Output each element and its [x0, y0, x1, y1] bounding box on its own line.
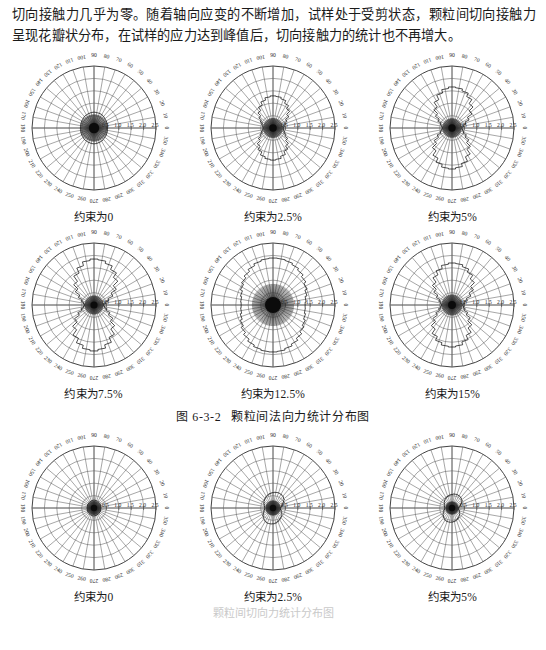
subplot-caption-normal-12p5: 约束为12.5% — [241, 385, 305, 401]
radial-tick-label-2.5: 2.5 — [151, 501, 158, 507]
radial-tick-label-1.5: 1.5 — [126, 121, 133, 127]
angle-tick-label-50: 50 — [136, 448, 144, 456]
angle-tick-label-150: 150 — [386, 467, 395, 477]
center-core-dot — [90, 301, 97, 308]
angle-tick-label-310: 310 — [494, 178, 504, 188]
subplot-caption-tangential-2p5: 约束为2.5% — [244, 588, 302, 604]
angle-tick-label-330: 330 — [331, 539, 340, 549]
angle-tick-label-0: 0 — [522, 126, 528, 129]
angle-tick-label-290: 290 — [293, 369, 303, 378]
angle-tick-label-0: 0 — [343, 506, 349, 509]
angle-tick-label-60: 60 — [305, 238, 313, 246]
angle-tick-label-90: 90 — [270, 229, 276, 235]
angle-tick-label-10: 10 — [162, 112, 169, 119]
angle-tick-label-300: 300 — [483, 363, 493, 372]
angle-tick-label-0: 0 — [163, 506, 169, 509]
angle-tick-label-70: 70 — [474, 233, 481, 241]
angle-tick-label-70: 70 — [474, 56, 481, 64]
radial-tick-label-1.0: 1.0 — [114, 121, 121, 127]
angle-tick-label-30: 30 — [153, 467, 161, 475]
angle-tick-label-340: 340 — [158, 148, 167, 158]
angle-tick-label-310: 310 — [314, 178, 324, 188]
angle-tick-label-340: 340 — [337, 528, 346, 538]
figure-number: 图 6-3-2 — [176, 410, 221, 424]
angle-tick-label-160: 160 — [381, 98, 390, 108]
angle-tick-label-210: 210 — [386, 538, 395, 548]
radial-tick-label-2.0: 2.0 — [139, 121, 146, 127]
angle-tick-label-10: 10 — [520, 492, 527, 499]
angle-tick-label-340: 340 — [337, 148, 346, 158]
angle-tick-label-220: 220 — [213, 548, 223, 558]
radial-tick-label-1.5: 1.5 — [306, 298, 313, 304]
angle-tick-label-120: 120 — [411, 61, 421, 70]
angle-tick-label-130: 130 — [222, 68, 232, 78]
angle-tick-label-170: 170 — [199, 288, 206, 298]
angle-tick-label-350: 350 — [520, 313, 527, 323]
angle-tick-label-140: 140 — [213, 77, 223, 87]
angle-tick-label-130: 130 — [222, 245, 232, 255]
angle-tick-label-140: 140 — [393, 254, 403, 264]
angle-tick-label-140: 140 — [213, 254, 223, 264]
angle-tick-label-260: 260 — [77, 574, 87, 581]
angle-tick-label-250: 250 — [64, 367, 74, 376]
angle-tick-label-60: 60 — [305, 61, 313, 69]
paragraph-text: 切向接触力几乎为零。随着轴向应变的不断增加，试样处于受剪状态，颗粒间切向接触力呈… — [12, 4, 536, 47]
angle-tick-label-160: 160 — [202, 275, 211, 285]
angle-tick-label-100: 100 — [76, 54, 86, 61]
angle-tick-label-100: 100 — [256, 54, 266, 61]
plot-cell-normal-15: 0102030405060708090100110120130140150160… — [365, 224, 539, 401]
angle-tick-label-50: 50 — [316, 448, 324, 456]
center-core-dot — [449, 505, 455, 511]
angle-tick-label-30: 30 — [332, 87, 340, 95]
angle-tick-label-220: 220 — [393, 345, 403, 355]
angle-tick-label-20: 20 — [517, 276, 525, 283]
angle-tick-label-320: 320 — [503, 549, 513, 559]
angle-tick-label-280: 280 — [101, 373, 111, 380]
angle-tick-label-310: 310 — [314, 558, 324, 568]
angle-tick-label-90: 90 — [91, 229, 97, 235]
figure-row-normal-2: 0102030405060708090100110120130140150160… — [0, 224, 546, 401]
plot-cell-normal-2p5: 0102030405060708090100110120130140150160… — [186, 47, 360, 224]
angle-tick-label-210: 210 — [386, 335, 395, 345]
angle-tick-label-220: 220 — [393, 548, 403, 558]
angle-tick-label-20: 20 — [517, 479, 525, 486]
radial-tick-label-2.5: 2.5 — [330, 298, 337, 304]
angle-tick-label-0: 0 — [343, 303, 349, 306]
angle-tick-label-80: 80 — [103, 53, 110, 60]
angle-tick-label-180: 180 — [199, 124, 205, 133]
plot-cell-tangential-0: 0102030405060708090100110120130140150160… — [7, 427, 181, 604]
angle-tick-label-100: 100 — [256, 434, 266, 441]
angle-tick-label-230: 230 — [222, 354, 232, 364]
angle-tick-label-40: 40 — [504, 77, 512, 85]
angle-tick-label-350: 350 — [162, 136, 169, 146]
figure-caption: 图 6-3-2颗粒间法向力统计分布图 — [0, 407, 546, 425]
angle-tick-label-230: 230 — [401, 177, 411, 187]
angle-tick-label-70: 70 — [474, 436, 481, 444]
angle-tick-label-270: 270 — [269, 577, 278, 583]
bottom-partial-caption: 颗粒间切向力统计分布图 — [0, 604, 546, 620]
angle-tick-label-10: 10 — [520, 289, 527, 296]
angle-tick-label-40: 40 — [325, 457, 333, 465]
angle-tick-label-130: 130 — [401, 68, 411, 78]
angle-tick-label-240: 240 — [412, 362, 422, 371]
angle-tick-label-120: 120 — [232, 61, 242, 70]
figure-row-normal-1: 0102030405060708090100110120130140150160… — [0, 47, 546, 224]
angle-tick-label-260: 260 — [77, 194, 87, 201]
angle-tick-label-290: 290 — [293, 192, 303, 201]
angle-tick-label-90: 90 — [270, 52, 276, 58]
angle-tick-label-200: 200 — [202, 147, 211, 157]
angle-tick-label-240: 240 — [53, 565, 63, 574]
angle-tick-label-290: 290 — [113, 192, 123, 201]
angle-tick-label-260: 260 — [435, 574, 445, 581]
angle-tick-label-350: 350 — [341, 313, 348, 323]
angle-tick-label-60: 60 — [485, 238, 493, 246]
plot-cell-normal-0: 0102030405060708090100110120130140150160… — [7, 47, 181, 224]
angle-tick-label-150: 150 — [206, 87, 215, 97]
angle-tick-label-280: 280 — [460, 373, 470, 380]
polar-plot-normal-5: 0102030405060708090100110120130140150160… — [366, 47, 538, 207]
angle-tick-label-270: 270 — [269, 374, 278, 380]
angle-tick-label-120: 120 — [411, 238, 421, 247]
angle-tick-label-340: 340 — [158, 528, 167, 538]
angle-tick-label-90: 90 — [450, 229, 456, 235]
angle-tick-label-290: 290 — [472, 369, 482, 378]
